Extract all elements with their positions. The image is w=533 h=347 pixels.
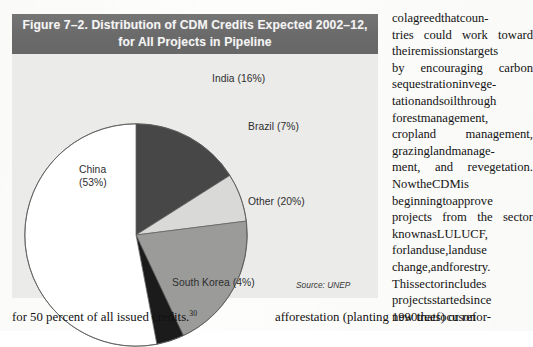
body-line: projects started since <box>392 292 533 309</box>
body-line: forest management, <box>392 110 533 127</box>
pie-label-china-value: (53%) <box>79 177 107 190</box>
pie-label-other: Other (20%) <box>248 196 305 209</box>
body-line: their emissions targets <box>392 43 533 60</box>
body-line: cropland management, <box>392 126 533 143</box>
pie-label-brazil: Brazil (7%) <box>248 121 299 134</box>
body-line: tries could work toward <box>392 27 533 44</box>
body-line: tation and soil through <box>392 93 533 110</box>
body-line: Now the CDM is <box>392 176 533 193</box>
figure-source-note: Source: UNEP <box>296 280 350 290</box>
body-line: sequestration in vege- <box>392 76 533 93</box>
pie-label-south-korea: South Korea (4%) <box>172 277 255 290</box>
pie-label-india: India (16%) <box>212 73 265 86</box>
body-text-right-column: col agreed that coun-tries could work to… <box>392 10 533 325</box>
right-column-last-line: afforestation (planting new trees) or re… <box>275 309 491 325</box>
body-line: col agreed that coun- <box>392 10 533 27</box>
figure-title-bar: Figure 7–2. Distribution of CDM Credits … <box>12 14 378 54</box>
figure-title-line-1: Figure 7–2. Distribution of CDM Credits … <box>22 17 367 34</box>
body-line: beginning to approve <box>392 193 533 210</box>
left-column-last-line: for 50 percent of all issued credits.30 <box>12 309 197 325</box>
body-line: known as LULUCF, <box>392 226 533 243</box>
body-line: ment, and revegetation. <box>392 159 533 176</box>
footnote-marker-30: 30 <box>189 309 197 318</box>
pie-label-china-name: China <box>79 164 106 175</box>
figure-title-line-2: for All Projects in Pipeline <box>118 34 271 51</box>
body-line: by encouraging carbon <box>392 60 533 77</box>
left-column-last-line-text: for 50 percent of all issued credits. <box>12 310 189 324</box>
body-line: change, and forestry. <box>392 259 533 276</box>
body-line: grazing land manage- <box>392 143 533 160</box>
pie-label-china: China (53%) <box>79 164 107 189</box>
body-line: projects from the sector <box>392 209 533 226</box>
body-line: This sector includes <box>392 276 533 293</box>
body-line: for land use, land use <box>392 242 533 259</box>
